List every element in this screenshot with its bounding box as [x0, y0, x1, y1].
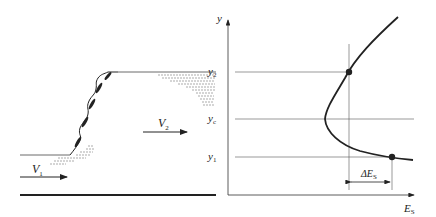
v2-label: V2 — [158, 116, 169, 132]
hydraulic-jump-diagram: V1 V2 y ES y2 yc y1 ΔES — [0, 0, 436, 217]
v1-label: V1 — [32, 162, 43, 178]
yc-label: yc — [207, 112, 216, 126]
roller-turbulence — [158, 75, 215, 105]
y2-label: y2 — [207, 65, 217, 79]
jump-wave-blobs — [74, 71, 113, 148]
specific-energy-plot: y ES y2 yc y1 ΔES — [207, 12, 415, 216]
hydraulic-jump-figure: V1 V2 — [20, 71, 216, 195]
y-axis-label: y — [216, 12, 222, 24]
point-y2 — [346, 69, 352, 75]
specific-energy-curve — [325, 17, 413, 160]
x-axis-label: ES — [403, 202, 415, 216]
point-y1 — [389, 154, 395, 160]
delta-es-label: ΔES — [360, 168, 377, 181]
y1-label: y1 — [207, 150, 217, 164]
